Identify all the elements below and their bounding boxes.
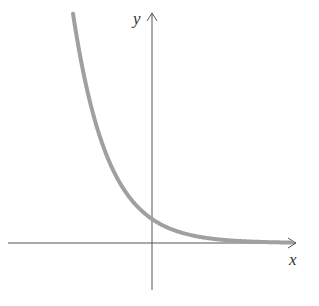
chart: y x [0,0,319,306]
curve-exp-decay [73,14,292,243]
plot-area: y x [0,0,319,306]
y-axis-label: y [131,9,141,28]
x-axis-label: x [288,250,297,269]
